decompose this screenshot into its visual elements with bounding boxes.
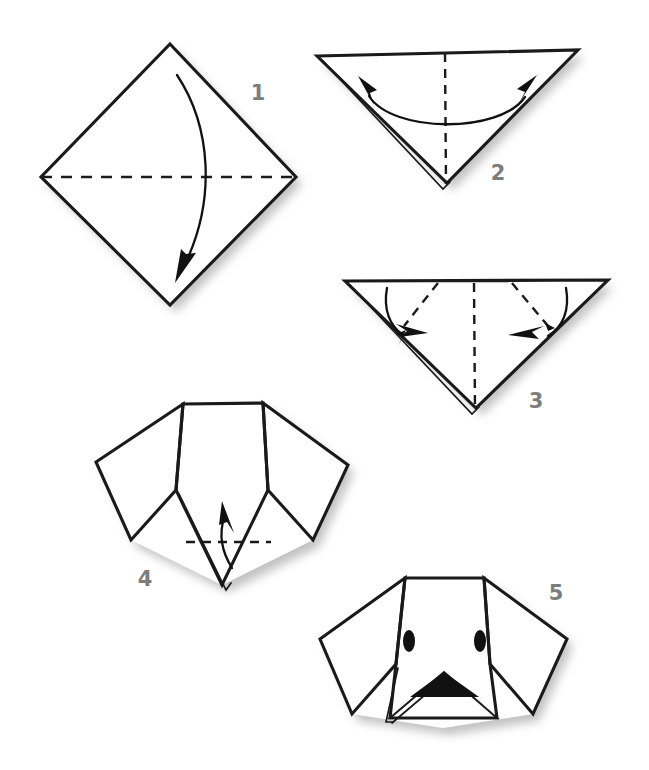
step-3-paper — [345, 280, 608, 408]
step-5-left-eye-icon — [403, 630, 415, 652]
step-5-group: 5 — [320, 578, 567, 728]
origami-diagram: 1 2 3 — [0, 0, 649, 770]
step-2-paper — [317, 50, 578, 183]
step-5-number: 5 — [549, 581, 564, 605]
step-5-right-eye-icon — [474, 630, 486, 652]
step-1-number: 1 — [251, 81, 266, 105]
step-2-paper-fill — [317, 50, 578, 183]
step-1-group: 1 — [41, 44, 296, 305]
diagram-canvas: 1 2 3 — [0, 0, 649, 770]
step-4-paper — [96, 403, 348, 585]
step-3-group: 3 — [345, 280, 608, 414]
step-4-paper-fill — [96, 403, 348, 585]
step-3-paper-fill — [345, 280, 608, 408]
step-2-group: 2 — [317, 50, 578, 189]
step-4-group: 4 — [96, 403, 348, 591]
step-3-number: 3 — [529, 389, 544, 413]
step-2-number: 2 — [491, 161, 506, 185]
step-5-paper-fill — [320, 578, 567, 728]
step-4-number: 4 — [138, 567, 153, 591]
step-5-paper — [320, 578, 567, 728]
